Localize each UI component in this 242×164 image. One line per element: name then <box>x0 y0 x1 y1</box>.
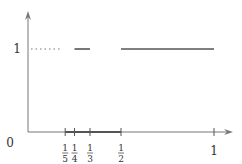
x-tick-label-denominator: 4 <box>72 154 78 164</box>
x-tick-label-denominator: 2 <box>118 154 124 164</box>
x-tick-label-numerator: 1 <box>118 143 124 153</box>
x-tick-label-numerator: 1 <box>72 143 78 153</box>
x-tick-label-denominator: 5 <box>62 154 68 164</box>
x-tick-label-denominator: 3 <box>87 154 93 164</box>
x-tick-label-numerator: 1 <box>87 143 93 153</box>
step-function-diagram: 0 1 151413121 <box>0 0 242 164</box>
axes <box>25 11 233 135</box>
x-tick-label-numerator: 1 <box>62 143 68 153</box>
x-ticks: 151413121 <box>62 128 218 164</box>
x-tick-label: 1 <box>210 144 218 158</box>
origin-label: 0 <box>6 136 14 150</box>
y-tick-label-1: 1 <box>13 42 21 56</box>
